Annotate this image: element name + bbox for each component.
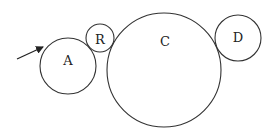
diagram-svg: A R C D (0, 0, 276, 138)
arrow-icon (17, 47, 43, 59)
label-c: C (160, 34, 170, 49)
circle-c (107, 13, 221, 127)
label-b: R (95, 32, 106, 47)
label-a: A (62, 53, 73, 68)
circle-diagram: A R C D (0, 0, 276, 138)
label-d: D (233, 30, 243, 45)
